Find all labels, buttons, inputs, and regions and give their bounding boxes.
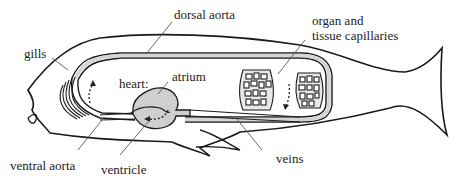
label-gills: gills xyxy=(24,47,46,61)
label-veins: veins xyxy=(276,152,303,166)
vessel-loop-outer xyxy=(72,53,332,122)
label-ventral-aorta: ventral aorta xyxy=(10,159,75,173)
label-heart: heart: xyxy=(119,77,149,91)
label-organ-line1: organ and xyxy=(312,14,363,28)
dorsal-aorta-vessel xyxy=(75,56,329,120)
fish-circulation-diagram: dorsal aorta gills organ and tissue capi… xyxy=(0,0,464,182)
label-organ-line2: tissue capillaries xyxy=(312,29,398,43)
label-ventricle: ventricle xyxy=(101,163,146,177)
pelvic-fin xyxy=(196,130,240,150)
vessel-loop-inner xyxy=(78,58,326,117)
capillary-bed-right xyxy=(296,73,323,108)
label-atrium: atrium xyxy=(172,70,206,84)
capillary-bed-left xyxy=(240,70,274,110)
label-dorsal-aorta: dorsal aorta xyxy=(174,8,235,22)
